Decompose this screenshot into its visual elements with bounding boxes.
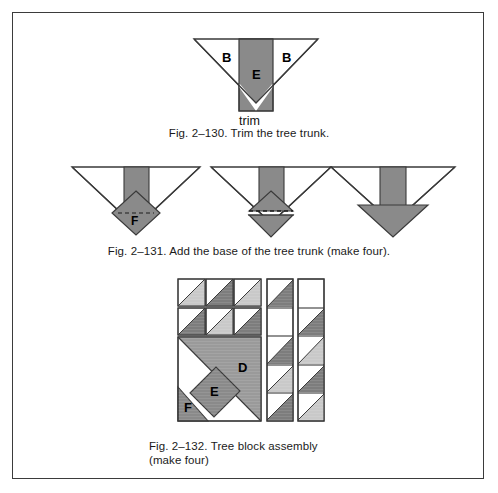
top-row-1	[178, 279, 261, 306]
illustration-frame: B B E trim Fig. 2–130. Trim the tree tru…	[12, 12, 484, 479]
step3-base-triangle	[358, 205, 428, 237]
caption-fig-2-132-line1: Fig. 2–132. Tree block assembly	[149, 439, 379, 453]
figure-2-131-step-1: F	[69, 161, 203, 231]
figure-2-130: B B E trim	[191, 31, 321, 117]
fig-2-130-drawing	[191, 31, 321, 117]
step2-diamond-folded	[249, 215, 293, 237]
step1-drawing	[69, 161, 203, 231]
caption-fig-2-132-line2: (make four)	[149, 453, 379, 467]
step3-drawing	[328, 161, 458, 231]
right-strip	[298, 279, 324, 421]
step3-trunk	[380, 167, 406, 211]
caption-fig-2-131: Fig. 2–131. Add the base of the tree tru…	[89, 244, 409, 258]
middle-strip	[267, 279, 293, 421]
caption-fig-2-130: Fig. 2–130. Trim the tree trunk.	[109, 126, 389, 140]
tree-base-square	[178, 337, 261, 421]
top-row-2	[178, 308, 261, 335]
page-root: B B E trim Fig. 2–130. Trim the tree tru…	[0, 0, 498, 493]
figure-2-131-step-3	[328, 161, 458, 231]
figure-2-131-step-2	[208, 161, 334, 231]
figure-2-132: D E F	[168, 275, 328, 427]
step2-drawing	[208, 161, 334, 231]
block-assembly-drawing	[168, 275, 328, 427]
trunk-rect-E	[239, 39, 273, 111]
